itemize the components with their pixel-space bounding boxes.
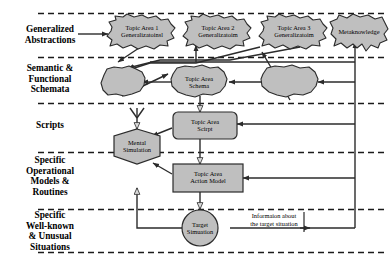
tier-label-scripts: Scripts xyxy=(0,120,100,131)
edge-action-to-mental xyxy=(153,163,172,174)
circle-target-situation xyxy=(182,210,218,246)
cloud-topic-area-1 xyxy=(107,14,175,49)
tier-label-specific-situations: Specific Well-known & Unusual Situations xyxy=(0,210,100,252)
tier-label-specific-operational-models: Specific Operational Models & Routines xyxy=(0,155,100,197)
cloud-metaknowledge xyxy=(330,14,388,51)
cloud-schema-center xyxy=(171,65,227,97)
diagram-canvas: Generalized Abstractions Semantic & Func… xyxy=(0,0,390,265)
cloud-topic-area-2 xyxy=(183,14,251,49)
box-topic-area-action-model xyxy=(173,164,243,192)
cloud-schema-left xyxy=(101,66,145,96)
edge-gen1-to-schemaleft xyxy=(118,48,139,62)
node-shapes xyxy=(114,112,243,246)
tier-label-semantic-functional-schemata: Semantic & Functional Schemata xyxy=(0,63,100,95)
edge-into-mental-top-wing-r xyxy=(137,108,144,118)
edge-into-mental-top-wing-l xyxy=(130,108,137,118)
cloud-shapes xyxy=(101,14,388,97)
annotation-info-about-target-situation: Informaion about the target situation xyxy=(244,212,304,228)
tier-label-generalized-abstractions: Generalized Abstractions xyxy=(0,24,100,45)
cloud-schema-right xyxy=(261,65,318,97)
hex-mental-simulation xyxy=(114,129,160,164)
cloud-topic-area-3 xyxy=(259,14,327,49)
box-topic-area-script xyxy=(173,112,237,139)
